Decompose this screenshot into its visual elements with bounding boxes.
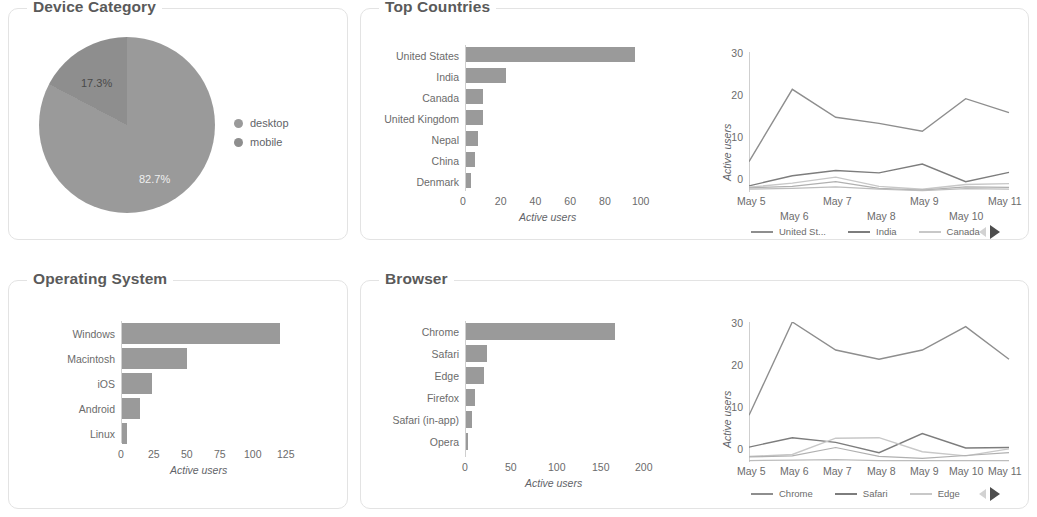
bar-category-label: Canada	[359, 92, 459, 104]
y-tick-label: 10	[711, 131, 743, 143]
legend-label: India	[876, 226, 897, 237]
top-countries-line-chart: Active users 30 20 10 0 May 5 May 7 May …	[711, 33, 1023, 233]
bar-category-label: Linux	[15, 428, 115, 440]
table-row[interactable]	[466, 89, 483, 104]
y-tick-label: 30	[711, 47, 743, 59]
legend-item-desktop[interactable]: desktop	[234, 117, 289, 129]
legend-item-india[interactable]: India	[848, 226, 897, 237]
legend-label-desktop: desktop	[250, 117, 289, 129]
table-row[interactable]	[466, 345, 487, 362]
table-row[interactable]	[466, 47, 635, 62]
bar-category-label: Nepal	[359, 134, 459, 146]
table-row[interactable]	[466, 152, 475, 167]
chevron-left-icon[interactable]	[979, 227, 986, 237]
x-tick-label: May 9	[910, 195, 939, 207]
table-row[interactable]	[466, 173, 471, 188]
table-row[interactable]	[466, 323, 615, 340]
legend-line-icon	[919, 231, 941, 233]
table-row[interactable]	[466, 110, 483, 125]
table-row[interactable]	[466, 433, 468, 450]
table-row[interactable]	[122, 423, 127, 444]
legend-item-united-states[interactable]: United St...	[751, 226, 826, 237]
bar-category-label: Denmark	[359, 176, 459, 188]
x-tick-label: 100	[244, 448, 262, 460]
x-tick-label: 125	[277, 448, 295, 460]
legend-line-icon	[910, 493, 932, 495]
legend-label: Canada	[947, 226, 980, 237]
operating-system-bar-chart: Windows Macintosh iOS Android Linux 0 25…	[121, 321, 311, 443]
y-tick-label: 0	[711, 173, 743, 185]
pie-graphic[interactable]	[39, 37, 215, 213]
legend-item-canada[interactable]: Canada	[919, 226, 980, 237]
device-category-pie-chart: 17.3% 82.7%	[39, 37, 215, 213]
legend-item-edge[interactable]: Edge	[910, 488, 960, 499]
x-tick-label: 60	[564, 195, 576, 207]
legend-item-safari[interactable]: Safari	[835, 488, 888, 499]
bar-category-label: Chrome	[349, 326, 459, 338]
x-tick-label: 75	[214, 448, 226, 460]
legend-line-icon	[835, 493, 857, 495]
chevron-left-icon[interactable]	[979, 489, 986, 499]
table-row[interactable]	[122, 323, 280, 344]
legend-label: Chrome	[779, 488, 813, 499]
table-row[interactable]	[466, 367, 484, 384]
x-tick-label: 0	[118, 448, 124, 460]
x-tick-label: May 10	[949, 210, 983, 222]
y-tick-label: 0	[711, 443, 743, 455]
chevron-right-icon[interactable]	[990, 225, 1000, 239]
pie-slice-label-mobile: 17.3%	[81, 77, 112, 89]
x-tick-label: 50	[505, 461, 517, 473]
card-title-operating-system: Operating System	[27, 270, 173, 288]
line-chart-plot-area[interactable]	[749, 322, 1021, 462]
table-row[interactable]	[466, 68, 506, 83]
legend-line-icon	[751, 493, 773, 495]
line-chart-plot-area[interactable]	[749, 52, 1021, 192]
card-browser: Browser Chrome Safari Edge Firefox Safar…	[360, 280, 1029, 509]
bar-category-label: iOS	[15, 378, 115, 390]
legend-label: Edge	[938, 488, 960, 499]
legend-item-chrome[interactable]: Chrome	[751, 488, 813, 499]
legend-line-icon	[848, 231, 870, 233]
bar-category-label: United Kingdom	[359, 113, 459, 125]
x-tick-label: 80	[599, 195, 611, 207]
x-tick-label: May 10	[949, 465, 983, 477]
legend-label: United St...	[779, 226, 826, 237]
x-tick-label: May 6	[780, 210, 809, 222]
legend-label: Safari	[863, 488, 888, 499]
card-top-countries: Top Countries United States India Canada…	[360, 8, 1029, 240]
line-chart-legend: Chrome Safari Edge	[751, 488, 982, 499]
bar-category-label: Safari	[349, 348, 459, 360]
card-device-category: Device Category 17.3% 82.7% desktop mobi…	[8, 8, 348, 240]
table-row[interactable]	[122, 398, 140, 419]
y-tick-label: 30	[711, 317, 743, 329]
x-axis-title: Active users	[170, 464, 227, 476]
legend-pager	[979, 225, 1000, 239]
card-title-device-category: Device Category	[27, 0, 162, 16]
x-axis-title: Active users	[525, 477, 582, 489]
x-tick-label: May 7	[823, 465, 852, 477]
x-axis-title: Active users	[519, 211, 576, 223]
bar-category-label: Firefox	[349, 392, 459, 404]
chevron-right-icon[interactable]	[990, 487, 1000, 501]
x-tick-label: May 5	[737, 465, 766, 477]
bar-category-label: Edge	[349, 370, 459, 382]
table-row[interactable]	[466, 131, 478, 146]
legend-item-mobile[interactable]: mobile	[234, 136, 289, 148]
x-tick-label: May 6	[780, 465, 809, 477]
legend-label-mobile: mobile	[250, 136, 282, 148]
table-row[interactable]	[122, 373, 152, 394]
x-tick-label: 200	[635, 461, 653, 473]
bar-category-label: Opera	[349, 436, 459, 448]
x-tick-label: May 9	[910, 465, 939, 477]
x-tick-label: May 8	[867, 465, 896, 477]
y-tick-label: 20	[711, 359, 743, 371]
table-row[interactable]	[122, 348, 187, 369]
x-tick-label: 40	[530, 195, 542, 207]
table-row[interactable]	[466, 411, 472, 428]
table-row[interactable]	[466, 389, 475, 406]
x-tick-label: May 11	[988, 195, 1022, 207]
x-tick-label: 0	[460, 195, 466, 207]
device-category-legend: desktop mobile	[234, 117, 289, 155]
y-axis-title: Active users	[721, 391, 733, 448]
x-tick-label: 20	[495, 195, 507, 207]
